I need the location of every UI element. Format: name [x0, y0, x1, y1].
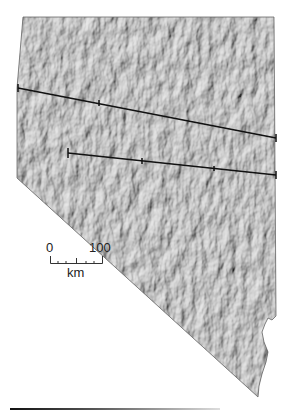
scale-bar — [51, 256, 103, 264]
nevada-relief — [0, 0, 291, 410]
scale-start-label: 0 — [46, 241, 53, 254]
scale-end-label: 100 — [89, 241, 111, 254]
scale-unit-label: km — [67, 266, 84, 279]
relief-map — [0, 0, 291, 410]
